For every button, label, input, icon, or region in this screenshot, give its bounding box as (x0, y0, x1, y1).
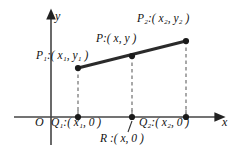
x-axis-label: x (222, 116, 227, 128)
point-r (129, 114, 135, 120)
geometry-figure: y x O P₁:( x₁, y₁ ) P:( x, y ) P₂:( x₂, … (0, 0, 232, 151)
point-label-q2: Q₂:( x₂, 0 ) (139, 117, 189, 129)
leader-line-r (128, 121, 132, 132)
point-label-q1: Q₁:( x₁, 0 ) (51, 117, 101, 129)
origin-label: O (35, 116, 44, 128)
point-label-r: R :( x, 0 ) (100, 133, 144, 145)
y-axis-label: y (55, 10, 60, 22)
point-p1 (75, 65, 81, 71)
point-label-p: P:( x, y ) (96, 33, 136, 45)
point-p2 (183, 38, 189, 44)
point-p (129, 53, 135, 59)
point-label-p2: P₂:( x₂, y₂ ) (137, 13, 189, 25)
point-label-p1: P₁:( x₁, y₁ ) (36, 50, 88, 62)
